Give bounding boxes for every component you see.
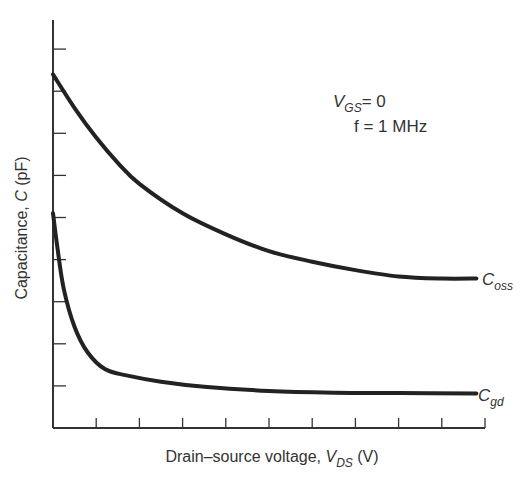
curve-c-oss bbox=[53, 74, 476, 278]
x-axis-label: Drain–source voltage, VDS (V) bbox=[165, 448, 378, 466]
curve-c-gd bbox=[53, 213, 476, 393]
axes bbox=[53, 20, 485, 428]
series-label-cgd: Cgd bbox=[478, 386, 504, 406]
condition-frequency: f = 1 MHz bbox=[354, 117, 427, 137]
capacitance-chart bbox=[0, 0, 526, 487]
y-axis-label: Capacitance, C (pF) bbox=[13, 156, 31, 299]
series-label-coss: Coss bbox=[482, 270, 513, 290]
condition-vgs: VGS= 0 bbox=[333, 92, 386, 112]
